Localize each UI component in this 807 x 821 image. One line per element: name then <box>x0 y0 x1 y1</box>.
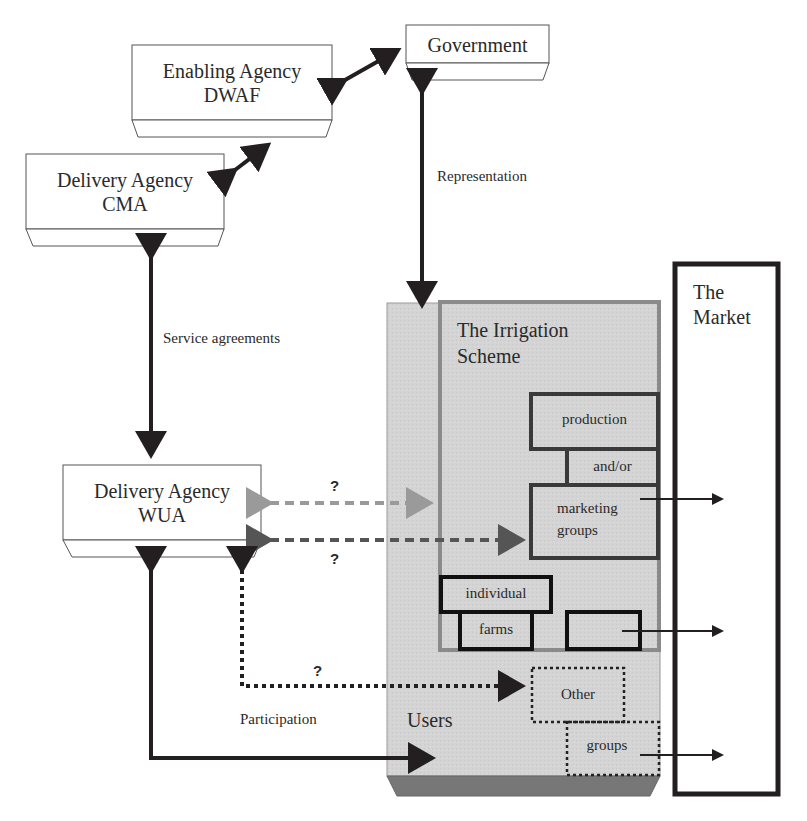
question-mark-1: ? <box>330 477 339 494</box>
market-node <box>675 264 778 794</box>
market-label-2: Market <box>693 305 751 329</box>
users-label: Users <box>407 708 453 732</box>
enabling-agency-label-2: DWAF <box>132 83 332 107</box>
representation-label: Representation <box>437 168 527 185</box>
question-mark-2: ? <box>330 550 339 567</box>
individual-label: individual <box>441 585 551 602</box>
production-label: production <box>531 411 658 428</box>
arrow-cma-dwaf <box>235 145 268 170</box>
cma-label-2: CMA <box>26 192 224 216</box>
arrow-dwaf-government <box>345 50 398 80</box>
cma-label-1: Delivery Agency <box>26 168 224 192</box>
marketing-groups-label-2: groups <box>557 522 598 539</box>
other-label: Other <box>532 686 624 703</box>
groups-label: groups <box>567 737 647 754</box>
wua-label-1: Delivery Agency <box>63 479 261 503</box>
and-or-label: and/or <box>567 458 658 475</box>
irrigation-scheme-label-2: Scheme <box>457 344 520 368</box>
enabling-agency-label-1: Enabling Agency <box>132 59 332 83</box>
wua-label-2: WUA <box>63 503 261 527</box>
government-label: Government <box>406 33 549 57</box>
farms-label: farms <box>460 621 532 638</box>
marketing-groups-label-1: marketing <box>557 500 618 517</box>
service-agreements-label: Service agreements <box>163 330 280 347</box>
diagram-canvas <box>0 0 807 821</box>
participation-label: Participation <box>240 711 317 728</box>
irrigation-scheme-label-1: The Irrigation <box>457 318 569 342</box>
market-label-1: The <box>693 280 724 304</box>
question-mark-3: ? <box>313 662 322 679</box>
